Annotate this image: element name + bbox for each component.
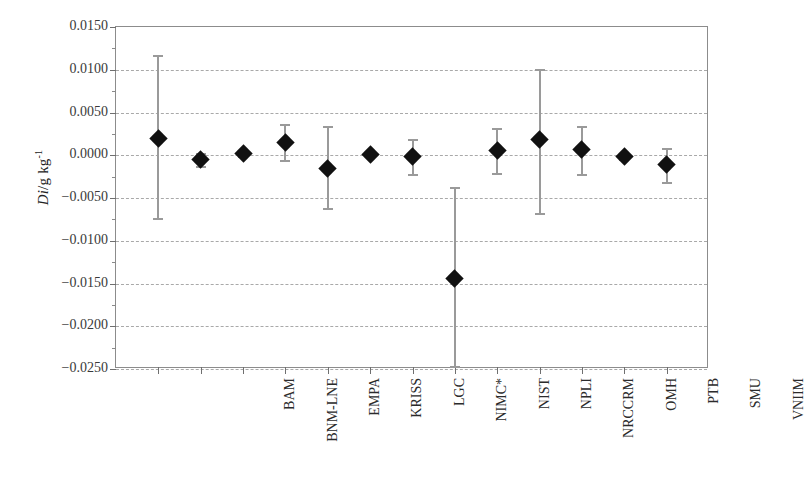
y-axis-tick-label: 0.0050 xyxy=(46,105,108,119)
y-axis-minor-tick xyxy=(112,177,116,178)
y-axis-tick xyxy=(110,113,116,114)
y-axis-tick xyxy=(110,326,116,327)
y-axis-minor-tick xyxy=(112,262,116,263)
gridline xyxy=(116,113,707,114)
gridline xyxy=(116,70,707,71)
data-point-marker xyxy=(446,269,464,287)
error-bar-cap-upper xyxy=(535,69,545,71)
x-axis-tick-label: NIMC* xyxy=(495,378,509,484)
data-point-marker xyxy=(657,155,675,173)
error-bar-cap-lower xyxy=(280,160,290,162)
x-axis-tick-label: BAM xyxy=(283,378,297,484)
y-axis-tick-label: 0.0150 xyxy=(46,19,108,33)
data-point-marker xyxy=(361,145,379,163)
data-point-marker xyxy=(530,131,548,149)
data-point-marker xyxy=(192,150,210,168)
y-axis-tick-label: −0.0150 xyxy=(46,276,108,290)
y-axis-tick xyxy=(110,284,116,285)
x-axis-tick-label: KRISS xyxy=(410,378,424,484)
y-axis-tick-label: −0.0200 xyxy=(46,318,108,332)
data-point-marker xyxy=(234,144,252,162)
data-point-marker xyxy=(149,129,167,147)
plot-area xyxy=(115,26,708,368)
y-axis-minor-tick xyxy=(112,219,116,220)
error-bar-cap-upper xyxy=(323,126,333,128)
y-axis-label-exponent: -1 xyxy=(33,150,44,159)
gridline xyxy=(116,326,707,327)
data-point-marker xyxy=(276,133,294,151)
error-bar-cap-lower xyxy=(577,174,587,176)
y-axis-tick xyxy=(110,198,116,199)
y-axis-minor-tick xyxy=(112,134,116,135)
error-bar-cap-upper xyxy=(450,187,460,189)
x-axis-tick-label: NRCCRM xyxy=(622,378,636,484)
x-axis-tick-label: OMH xyxy=(665,378,679,484)
error-bar-cap-lower xyxy=(662,182,672,184)
y-axis-tick-label: −0.0250 xyxy=(46,361,108,375)
error-bar-cap-lower xyxy=(535,213,545,215)
x-axis-tick-label: NPLI xyxy=(580,378,594,484)
error-bar-cap-upper xyxy=(153,55,163,57)
y-axis-minor-tick xyxy=(112,48,116,49)
y-axis-tick-label: −0.0100 xyxy=(46,233,108,247)
data-point-marker xyxy=(615,147,633,165)
error-bar-cap-lower xyxy=(153,218,163,220)
y-axis-tick xyxy=(110,155,116,156)
y-axis-tick-label: 0.0100 xyxy=(46,62,108,76)
gridline xyxy=(116,284,707,285)
y-axis-minor-tick xyxy=(112,91,116,92)
x-axis-tick-label: NIST xyxy=(538,378,552,484)
y-axis-minor-tick xyxy=(112,305,116,306)
error-bar-cap-lower xyxy=(408,174,418,176)
y-axis-tick-labels: 0.01500.01000.00500.0000−0.0050−0.0100−0… xyxy=(44,0,108,484)
error-bar-cap-lower xyxy=(323,208,333,210)
y-axis-tick-label: −0.0050 xyxy=(46,190,108,204)
x-axis-tick-labels: BAMBNM-LNEEMPAKRISSLGCNIMC*NISTNPLINRCCR… xyxy=(115,368,708,484)
error-bar-cap-upper xyxy=(492,128,502,130)
error-bar-cap-lower xyxy=(492,173,502,175)
gridline xyxy=(116,241,707,242)
error-bar-cap-upper xyxy=(408,139,418,141)
y-axis-tick xyxy=(110,241,116,242)
data-point-marker xyxy=(403,148,421,166)
error-bar-cap-upper xyxy=(577,126,587,128)
data-point-marker xyxy=(319,159,337,177)
y-axis-tick xyxy=(110,27,116,28)
y-axis-minor-tick xyxy=(112,348,116,349)
x-axis-tick-label: BNM-LNE xyxy=(326,378,340,484)
data-point-marker xyxy=(488,142,506,160)
x-axis-tick-label: EMPA xyxy=(368,378,382,484)
x-axis-tick-label: PTB xyxy=(707,378,721,484)
error-bar-cap-upper xyxy=(662,148,672,150)
x-axis-tick-label: VNIIM xyxy=(792,378,806,484)
x-axis-tick-label: SMU xyxy=(749,378,763,484)
error-bar-cap-upper xyxy=(280,124,290,126)
gridline xyxy=(116,198,707,199)
x-axis-tick-label: LGC xyxy=(453,378,467,484)
y-axis-tick-label: 0.0000 xyxy=(46,147,108,161)
y-axis-tick xyxy=(110,70,116,71)
